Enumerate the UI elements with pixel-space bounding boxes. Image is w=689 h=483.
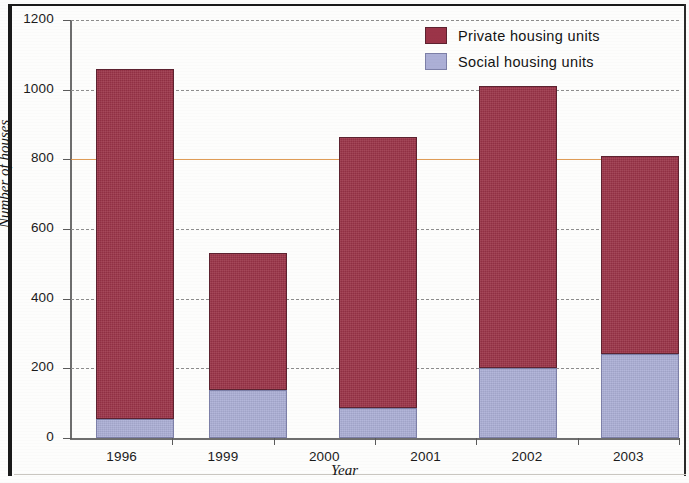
y-tick-label-200: 200 <box>8 359 54 374</box>
bar-segment-social-2000[interactable] <box>339 408 417 438</box>
y-tick-label-400: 400 <box>8 290 54 305</box>
bar-segment-social-2003[interactable] <box>601 354 679 438</box>
bar-2000[interactable] <box>339 137 417 438</box>
bar-segment-social-1999[interactable] <box>209 390 287 438</box>
x-tick-2001 <box>476 438 477 445</box>
bar-1996[interactable] <box>96 69 174 438</box>
bar-segment-private-2000[interactable] <box>339 137 417 408</box>
x-tick-2003 <box>679 438 680 445</box>
bar-segment-private-2002[interactable] <box>479 86 557 368</box>
y-axis-title: Number of houses <box>0 120 13 228</box>
bar-segment-private-1996[interactable] <box>96 69 174 418</box>
page-frame-top-border <box>8 4 686 6</box>
page-frame-left-border <box>8 4 12 476</box>
legend-swatch-social-icon <box>425 53 447 70</box>
legend-swatch-private-icon <box>425 27 447 44</box>
x-tick-1996 <box>172 438 173 445</box>
y-tick-label-800: 800 <box>8 150 54 165</box>
legend-label-social: Social housing units <box>458 54 594 70</box>
bar-2003[interactable] <box>601 156 679 438</box>
x-tick-2002 <box>578 438 579 445</box>
bar-2002[interactable] <box>479 86 557 438</box>
plot-area <box>71 20 679 438</box>
y-tick-label-1000: 1000 <box>8 81 54 96</box>
y-tick-label-1200: 1200 <box>8 11 54 26</box>
y-tick-0 <box>63 438 72 439</box>
bar-1999[interactable] <box>209 253 287 438</box>
chart-legend: Private housing unitsSocial housing unit… <box>425 27 665 79</box>
page-frame-right-border <box>684 4 686 476</box>
gridline-1200 <box>71 20 679 21</box>
bar-segment-social-1996[interactable] <box>96 419 174 438</box>
chart-page: 020040060080010001200 Number of houses 1… <box>0 0 689 483</box>
x-tick-1999 <box>274 438 275 445</box>
legend-item-private[interactable]: Private housing units <box>425 27 665 44</box>
legend-label-private: Private housing units <box>458 28 600 44</box>
y-tick-label-600: 600 <box>8 220 54 235</box>
y-tick-label-0: 0 <box>8 429 54 444</box>
legend-item-social[interactable]: Social housing units <box>425 53 665 70</box>
bar-segment-private-1999[interactable] <box>209 253 287 390</box>
bar-segment-social-2002[interactable] <box>479 368 557 438</box>
x-axis-title: Year <box>0 462 689 479</box>
bar-segment-private-2003[interactable] <box>601 156 679 354</box>
x-tick-2000 <box>375 438 376 445</box>
